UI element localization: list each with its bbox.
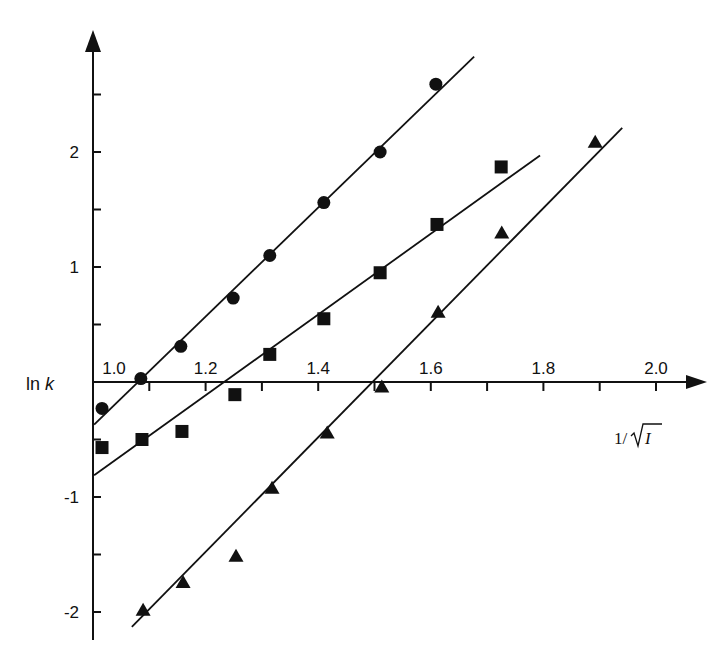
axes [85,30,707,640]
chart: 1.01.21.41.61.82.0-2-112 ln k 1/ I [0,0,722,655]
x-tick-label: 1.4 [306,359,330,378]
x-axis-arrow-icon [686,375,707,389]
triangle-marker-icon [494,226,509,239]
x-axis-label-radicand: I [644,429,652,448]
square-marker-icon [430,218,443,231]
fit-lines [94,57,622,627]
square-marker-icon [263,348,276,361]
circle-marker-icon [227,292,240,305]
circle-marker-icon [263,249,276,262]
triangle-marker-icon [320,426,335,439]
x-tick-label: 2.0 [644,359,668,378]
square-marker-icon [374,266,387,279]
square-marker-icon [175,425,188,438]
x-tick-label: 1.2 [194,359,218,378]
fit-line-squares [94,155,540,475]
circle-marker-icon [96,402,109,415]
circle-marker-icon [174,340,187,353]
x-axis-label-prefix: 1/ [614,429,628,448]
square-marker-icon [317,312,330,325]
y-tick-label: 2 [70,143,79,162]
y-tick-label: -2 [64,603,79,622]
x-axis-label: 1/ I [614,424,662,448]
triangle-marker-icon [265,481,280,494]
square-marker-icon [96,441,109,454]
triangle-marker-icon [229,549,244,562]
square-marker-icon [135,433,148,446]
fit-line-circles [94,57,474,425]
plot-area: 1.01.21.41.61.82.0-2-112 ln k 1/ I [0,0,722,655]
triangle-marker-icon [431,305,446,318]
circle-marker-icon [429,78,442,91]
square-marker-icon [228,388,241,401]
y-tick-label: 1 [70,258,79,277]
circle-marker-icon [374,146,387,159]
data-markers [96,78,603,616]
y-tick-label: -1 [64,488,79,507]
circle-marker-icon [134,372,147,385]
square-marker-icon [495,160,508,173]
x-tick-label: 1.6 [419,359,443,378]
x-tick-label: 1.8 [532,359,556,378]
y-axis-label: ln k [26,374,55,394]
circle-marker-icon [317,196,330,209]
triangle-marker-icon [176,575,191,588]
triangle-marker-icon [588,135,603,148]
y-axis-arrow-icon [85,30,101,52]
x-tick-label: 1.0 [102,359,126,378]
